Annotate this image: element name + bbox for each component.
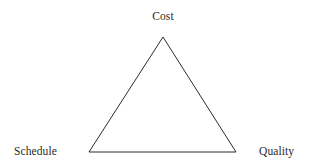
vertex-label-quality: Quality bbox=[259, 145, 294, 158]
vertex-label-schedule: Schedule bbox=[14, 145, 57, 158]
vertex-label-cost: Cost bbox=[0, 10, 312, 23]
triangle-outline bbox=[89, 37, 236, 152]
triangle-shape bbox=[0, 0, 312, 164]
triangle-diagram: Cost Schedule Quality bbox=[0, 0, 312, 164]
